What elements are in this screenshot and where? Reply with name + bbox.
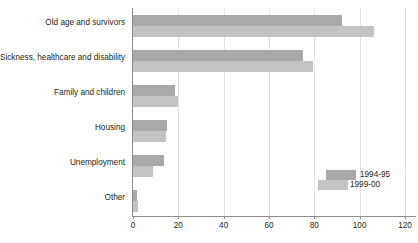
gridline-60	[269, 8, 270, 216]
gridline-40	[224, 8, 225, 216]
x-tick-label-40: 40	[219, 221, 228, 231]
bar-1-1	[133, 61, 313, 72]
tick-mark-40	[224, 216, 225, 219]
bar-chart: Old age and survivors Sickness, healthca…	[0, 0, 418, 243]
category-label-sickness-healthcare-disability: Sickness, healthcare and disability	[0, 53, 125, 63]
x-axis-line	[132, 216, 416, 217]
category-label-unemployment: Unemployment	[0, 158, 125, 168]
bar-0-0	[133, 15, 342, 26]
category-label-family-and-children: Family and children	[0, 88, 125, 98]
bar-2-1	[133, 96, 178, 107]
category-axis-labels: Old age and survivors Sickness, healthca…	[0, 8, 129, 216]
gridline-20	[178, 8, 179, 216]
category-label-housing: Housing	[0, 123, 125, 133]
x-tick-label-80: 80	[310, 221, 319, 231]
y-axis-line	[132, 8, 133, 216]
bar-3-0	[133, 120, 167, 131]
tick-mark-20	[178, 216, 179, 219]
category-label-old-age-and-survivors: Old age and survivors	[0, 18, 125, 28]
tick-mark-120	[405, 216, 406, 219]
bar-4-1	[133, 166, 153, 177]
x-tick-label-0: 0	[131, 221, 136, 231]
category-label-other: Other	[0, 193, 125, 203]
bar-5-0	[133, 190, 137, 201]
bar-5-1	[133, 201, 138, 212]
tick-mark-80	[314, 216, 315, 219]
bar-2-0	[133, 85, 175, 96]
bar-1-0	[133, 50, 303, 61]
x-tick-label-120: 120	[398, 221, 412, 231]
x-tick-label-20: 20	[174, 221, 183, 231]
x-tick-label-60: 60	[264, 221, 273, 231]
bar-0-1	[133, 26, 374, 37]
tick-mark-60	[269, 216, 270, 219]
legend-label-1999-00: 1999-00	[350, 180, 380, 190]
gridline-80	[314, 8, 315, 216]
bar-3-1	[133, 131, 166, 142]
legend-swatch-1999-00	[318, 180, 348, 190]
bar-4-0	[133, 155, 164, 166]
legend-swatch-1994-95	[326, 170, 356, 180]
chart-legend: 1994-95 1999-00	[318, 170, 414, 196]
legend-label-1994-95: 1994-95	[360, 170, 390, 180]
x-tick-label-100: 100	[353, 221, 367, 231]
tick-mark-0	[133, 216, 134, 219]
tick-mark-100	[360, 216, 361, 219]
